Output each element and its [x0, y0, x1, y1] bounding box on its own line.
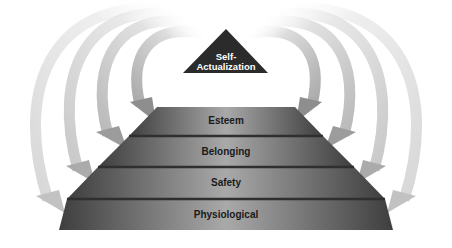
level-label-physiological: Physiological — [194, 209, 258, 220]
level-label-safety: Safety — [211, 177, 241, 188]
apex-label-line2: Actualization — [196, 62, 255, 72]
level-label-belonging: Belonging — [202, 146, 251, 157]
apex-label: Self- Actualization — [196, 52, 255, 72]
level-label-esteem: Esteem — [208, 115, 244, 126]
